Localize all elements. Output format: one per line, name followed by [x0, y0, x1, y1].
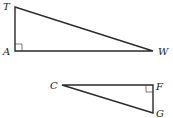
triangle-taw-shape [15, 7, 153, 51]
vertex-label-a: A [2, 46, 10, 57]
vertex-label-w: W [158, 46, 169, 57]
triangle-cfg: C F G [50, 80, 164, 118]
vertex-label-c: C [50, 80, 58, 91]
diagram-canvas: T A W C F G [0, 0, 173, 118]
vertex-label-f: F [155, 81, 164, 92]
right-angle-marker-f [146, 85, 153, 92]
right-angle-marker-a [15, 44, 22, 51]
vertex-label-t: T [3, 1, 11, 12]
vertex-label-g: G [156, 108, 164, 118]
triangle-taw: T A W [2, 1, 169, 57]
triangle-cfg-shape [62, 85, 153, 113]
